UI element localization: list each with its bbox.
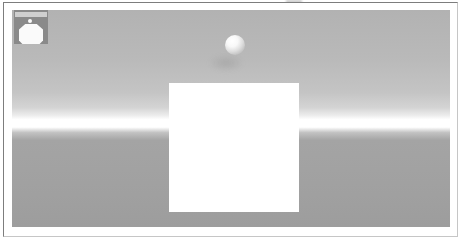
render-scene <box>12 10 450 227</box>
icon-titlebar <box>15 12 47 17</box>
overlay-app-icon[interactable] <box>14 10 48 44</box>
icon-glyph <box>19 24 43 44</box>
page <box>0 0 462 239</box>
icon-dot <box>28 19 32 23</box>
sphere-shadow <box>208 54 244 72</box>
white-cube-object <box>169 83 299 212</box>
sphere-object <box>225 35 245 55</box>
viewport-frame <box>3 2 458 237</box>
